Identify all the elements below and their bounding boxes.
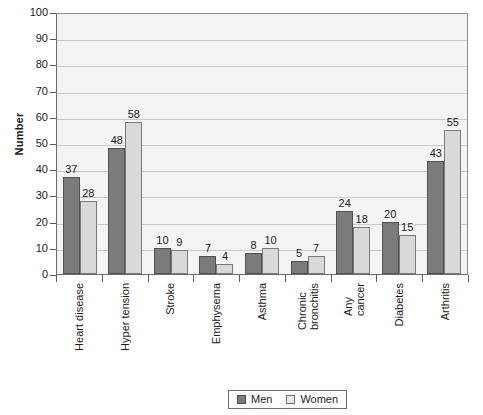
bar-value-label: 58 (128, 109, 140, 120)
bar-men[interactable]: 20 (382, 222, 399, 274)
bar-value-label: 24 (339, 198, 351, 209)
bar-women[interactable]: 18 (353, 227, 370, 274)
x-axis-tick (239, 275, 285, 282)
chart-legend: Men Women (228, 390, 347, 409)
y-axis-tick-label: 40 (16, 164, 48, 175)
legend-item-women[interactable]: Women (286, 394, 338, 405)
x-axis-label-line: bronchitis (308, 283, 320, 330)
bar-group: 74 (194, 14, 240, 274)
y-axis-tick (50, 223, 56, 224)
bar-men[interactable]: 10 (154, 248, 171, 274)
x-axis-ticks (56, 275, 468, 282)
bar-value-label: 5 (296, 248, 302, 259)
x-axis-category-label: Heart disease (73, 283, 85, 351)
x-axis-label-cell: Chronicbronchitis (285, 283, 331, 383)
y-axis-tick-label: 0 (16, 269, 48, 280)
x-axis-label-line: Asthma (256, 283, 268, 320)
x-axis-label-line: Emphysema (210, 283, 222, 344)
bar-men[interactable]: 5 (291, 261, 308, 274)
y-axis-tick-label: 70 (16, 86, 48, 97)
x-axis-category-label: Hyper tension (119, 283, 131, 351)
bar-group: 4355 (422, 14, 468, 274)
bar-group: 109 (148, 14, 194, 274)
y-axis-tick-label: 10 (16, 243, 48, 254)
bar-pair: 2418 (330, 14, 376, 274)
x-axis-label-line: Any (342, 297, 354, 316)
x-axis-label-cell: Diabetes (376, 283, 422, 383)
y-axis-tick (50, 196, 56, 197)
y-axis-tick (50, 92, 56, 93)
bar-value-label: 55 (447, 117, 459, 128)
x-axis-tick (56, 275, 102, 282)
y-axis-tick-label: 50 (16, 138, 48, 149)
bar-men[interactable]: 24 (336, 211, 353, 274)
x-axis-labels: Heart diseaseHyper tensionStrokeEmphysem… (56, 283, 468, 383)
x-axis-label-cell: Asthma (239, 283, 285, 383)
x-axis-category-label: Anycancer (342, 283, 366, 316)
x-axis-label-cell: Emphysema (193, 283, 239, 383)
bar-women[interactable]: 15 (399, 235, 416, 274)
bar-chart: Number 0102030405060708090100 3728485810… (0, 0, 483, 415)
bar-group: 810 (239, 14, 285, 274)
bar-women[interactable]: 28 (80, 201, 97, 274)
bar-pair: 4355 (422, 14, 468, 274)
bar-pair: 109 (148, 14, 194, 274)
y-axis-tick-label: 60 (16, 112, 48, 123)
bar-group: 4858 (103, 14, 149, 274)
x-axis-category-label: Diabetes (393, 283, 405, 326)
x-axis-tick (285, 275, 331, 282)
bar-women[interactable]: 4 (216, 264, 233, 274)
bar-men[interactable]: 37 (63, 177, 80, 274)
x-axis-label-line: Chronic (296, 292, 308, 330)
y-axis-tick (50, 170, 56, 171)
bar-women[interactable]: 9 (171, 250, 188, 274)
bar-men[interactable]: 48 (108, 148, 125, 274)
bar-men[interactable]: 43 (427, 161, 444, 274)
y-axis-tick (50, 249, 56, 250)
bar-men[interactable]: 7 (199, 256, 216, 274)
legend-label-women: Women (300, 394, 338, 405)
bar-women[interactable]: 7 (308, 256, 325, 274)
x-axis-tick (331, 275, 377, 282)
bar-value-label: 8 (250, 240, 256, 251)
x-axis-category-label: Asthma (256, 283, 268, 320)
y-axis-tick-label: 30 (16, 190, 48, 201)
bar-pair: 57 (285, 14, 331, 274)
legend-label-men: Men (251, 394, 272, 405)
y-axis-tick (50, 118, 56, 119)
bar-pair: 810 (239, 14, 285, 274)
bar-group: 2418 (330, 14, 376, 274)
y-axis-tick (50, 39, 56, 40)
legend-item-men[interactable]: Men (237, 394, 272, 405)
bar-value-label: 4 (222, 251, 228, 262)
x-axis-label-cell: Stroke (148, 283, 194, 383)
bar-pair: 2015 (376, 14, 422, 274)
y-axis-tick (50, 144, 56, 145)
bar-women[interactable]: 10 (262, 248, 279, 274)
x-axis-tick (376, 275, 422, 282)
bar-group: 2015 (376, 14, 422, 274)
bar-group: 57 (285, 14, 331, 274)
bar-groups: 372848581097481057241820154355 (57, 14, 467, 274)
men-swatch-icon (237, 395, 246, 404)
x-axis-label-cell: Heart disease (56, 283, 102, 383)
x-axis-tick (422, 275, 468, 282)
x-axis-tick (193, 275, 239, 282)
bar-value-label: 43 (430, 148, 442, 159)
bar-women[interactable]: 55 (444, 130, 461, 274)
y-axis-tick-label: 100 (16, 7, 48, 18)
bar-value-label: 10 (264, 235, 276, 246)
x-axis-label-line: Hyper tension (119, 283, 131, 351)
x-axis-label-line: Heart disease (73, 283, 85, 351)
y-axis-tick (50, 13, 56, 14)
bar-women[interactable]: 58 (125, 122, 142, 274)
bar-pair: 74 (194, 14, 240, 274)
y-axis-tick-label: 90 (16, 33, 48, 44)
x-axis-label-cell: Anycancer (331, 283, 377, 383)
bar-value-label: 48 (111, 135, 123, 146)
bar-men[interactable]: 8 (245, 253, 262, 274)
x-axis-tick (102, 275, 148, 282)
y-axis-labels: 0102030405060708090100 (16, 0, 48, 415)
bar-value-label: 10 (156, 235, 168, 246)
x-axis-label-line: cancer (354, 283, 366, 316)
